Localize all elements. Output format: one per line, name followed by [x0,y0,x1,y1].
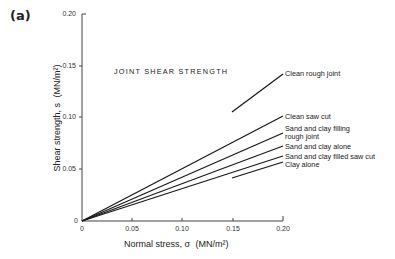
y-tick: 0.10 [62,113,76,120]
series-labels: Clean rough joint Clean saw cut Sand and… [285,69,375,169]
chart-title: JOINT SHEAR STRENGTH [114,67,228,76]
y-tick: 0.20 [62,10,76,17]
line-clean-saw-cut [82,116,283,221]
label-clean-saw-cut: Clean saw cut [285,112,331,121]
line-clean-rough-joint [232,74,283,112]
series-lines [82,74,283,221]
x-tick: 0.10 [175,225,189,232]
x-axis-title: Normal stress, σ (MN/m²) [124,239,229,249]
x-tick: 0 [80,225,84,232]
x-tick-labels: 0 0.05 0.10 0.15 0.20 [80,225,290,232]
label-sand-clay-alone: Sand and clay alone [285,142,351,151]
x-tick: 0.20 [276,225,290,232]
x-tick: 0.05 [125,225,139,232]
x-tick: 0.15 [226,225,240,232]
line-sand-clay-filling-rough-joint [82,133,283,221]
label-clean-rough-joint: Clean rough joint [285,69,340,78]
y-tick: 0 [74,217,78,224]
label-rough-joint: rough joint [285,132,319,141]
line-sand-clay-filled-saw-cut [82,156,283,221]
y-tick-labels: 0.20 0.15 0.10 0.05 0 [62,10,78,224]
y-axis [79,14,86,221]
line-sand-clay-alone [82,146,283,221]
chart: 0.20 0.15 0.10 0.05 0 0 0.05 0.10 0.15 0… [0,0,395,259]
y-tick: 0.05 [62,165,76,172]
y-axis-title: Shear strength, s (MN/m²) [52,64,62,171]
x-axis [82,216,283,221]
label-clay-alone: Clay alone [285,160,319,169]
y-tick: 0.15 [62,62,76,69]
